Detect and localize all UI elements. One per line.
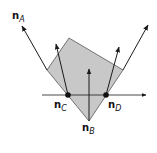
normal-arrow-a	[22, 26, 47, 70]
label-n-b: nB	[82, 122, 95, 136]
label-n-c: nC	[54, 99, 67, 113]
normal-arrow-right	[123, 25, 148, 70]
normal-vectors-diagram: nA nC nD nB	[0, 0, 157, 153]
label-n-d: nD	[108, 99, 121, 113]
point-d	[103, 92, 109, 98]
label-n-a: nA	[12, 10, 25, 24]
point-c	[65, 92, 71, 98]
